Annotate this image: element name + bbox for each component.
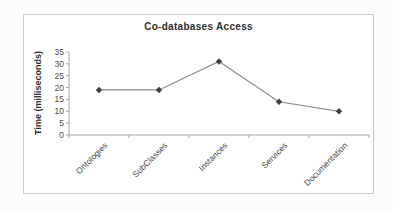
data-point-marker: [216, 58, 222, 64]
y-tick-label: 35: [55, 47, 65, 57]
y-tick-label: 30: [55, 59, 65, 69]
y-tick-label: 0: [59, 130, 64, 140]
scanned-chart-page: Co-databases Access Time (milliseconds) …: [0, 0, 393, 211]
x-category-label: Instances: [197, 140, 230, 173]
chart-frame: Co-databases Access Time (milliseconds) …: [23, 14, 374, 194]
x-category-label: Documentation: [302, 140, 350, 188]
y-tick-label: 5: [59, 118, 64, 128]
x-category-label: SubClasses: [130, 140, 169, 179]
data-point-marker: [96, 87, 102, 93]
plot-area: 05101520253035OntologiesSubClassesInstan…: [24, 15, 373, 193]
y-tick-label: 20: [55, 83, 65, 93]
x-category-label: Ontologies: [74, 140, 110, 176]
y-tick-label: 15: [55, 94, 65, 104]
data-point-marker: [156, 87, 162, 93]
y-tick-label: 10: [55, 106, 65, 116]
y-tick-label: 25: [55, 71, 65, 81]
x-category-label: Services: [259, 140, 289, 170]
series-line: [99, 61, 339, 111]
data-point-marker: [336, 108, 342, 114]
data-point-marker: [276, 99, 282, 105]
